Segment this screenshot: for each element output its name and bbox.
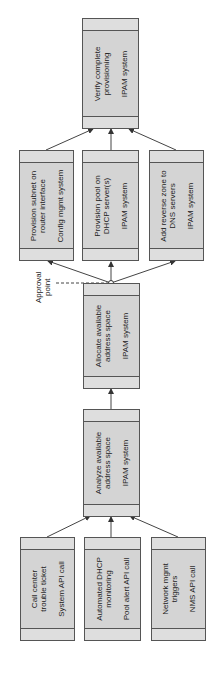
band bbox=[83, 151, 138, 163]
node-system: IPAM system bbox=[120, 182, 129, 229]
band bbox=[83, 19, 138, 31]
arrow-reverse-zone-to-verify bbox=[129, 129, 176, 150]
band bbox=[21, 538, 74, 550]
node-system: Pool alert API call bbox=[122, 558, 131, 621]
node-title: Network mgmt triggers bbox=[161, 563, 179, 615]
band bbox=[83, 116, 138, 128]
node-reverse-zone: Add reverse zone to DNS serversIPAM syst… bbox=[149, 150, 204, 261]
node-title: Automated DHCP monitoring bbox=[95, 557, 113, 621]
approval-point-label: Approval point bbox=[34, 271, 52, 303]
band bbox=[20, 248, 73, 260]
arrow-call-center-to-analyze bbox=[47, 516, 90, 537]
band bbox=[152, 628, 205, 640]
node-title: Call center trouble ticket bbox=[30, 566, 48, 611]
node-title: Allocate available address space bbox=[94, 305, 112, 367]
node-system: NMS API call bbox=[188, 566, 197, 613]
node-system: IPAM system bbox=[121, 440, 130, 487]
node-title: Provision pool on DHCP server(s) bbox=[93, 175, 111, 236]
node-title: Add reverse zone to DNS servers bbox=[159, 170, 177, 242]
band bbox=[85, 538, 140, 550]
node-system: IPAM system bbox=[121, 313, 130, 360]
node-allocate: Allocate available address spaceIPAM sys… bbox=[83, 283, 140, 389]
band bbox=[150, 248, 203, 260]
arrow-subnet-to-verify bbox=[46, 129, 93, 150]
arrow-nms-to-analyze bbox=[130, 516, 178, 537]
band bbox=[84, 410, 139, 422]
band bbox=[20, 151, 73, 163]
node-verify: Verify complete provisioningIPAM system bbox=[82, 18, 139, 129]
node-title: Provision subnet on router interface bbox=[29, 170, 47, 240]
arrow-allocate-to-reverse-zone bbox=[111, 261, 175, 283]
band bbox=[84, 376, 139, 388]
node-title: Verify complete provisioning bbox=[93, 46, 111, 101]
node-analyze: Analyze available address spaceIPAM syst… bbox=[83, 409, 140, 517]
band bbox=[21, 628, 74, 640]
node-dhcp-monitoring: Automated DHCP monitoringPool alert API … bbox=[84, 537, 141, 641]
band bbox=[150, 151, 203, 163]
band bbox=[85, 628, 140, 640]
band bbox=[83, 248, 138, 260]
node-call-center: Call center trouble ticketSystem API cal… bbox=[20, 537, 75, 641]
node-system: System API call bbox=[57, 561, 66, 617]
node-system: Config mgmt system bbox=[56, 169, 65, 242]
node-system: IPAM system bbox=[186, 182, 195, 229]
arrow-allocate-to-subnet bbox=[48, 261, 111, 283]
node-system: IPAM system bbox=[120, 50, 129, 97]
band bbox=[84, 504, 139, 516]
node-provision-subnet: Provision subnet on router interfaceConf… bbox=[19, 150, 74, 261]
node-provision-pool: Provision pool on DHCP server(s)IPAM sys… bbox=[82, 150, 139, 261]
node-network-mgmt: Network mgmt triggersNMS API call bbox=[151, 537, 206, 641]
band bbox=[152, 538, 205, 550]
band bbox=[84, 284, 139, 296]
node-title: Analyze available address space bbox=[94, 432, 112, 494]
